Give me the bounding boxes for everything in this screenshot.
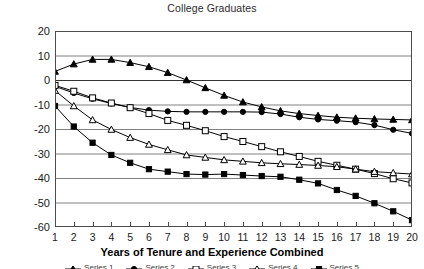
y-tick-label-7: -50	[20, 197, 50, 209]
legend-label-1: Series 1	[84, 263, 113, 269]
data-point-filled-square	[128, 160, 133, 165]
legend-label-2: Series 2	[145, 263, 174, 269]
x-tick-label-19: 20	[406, 231, 418, 243]
data-point-open-square	[221, 134, 227, 140]
legend-swatch-filled-triangle-icon	[65, 265, 81, 269]
y-axis-ticklabels: 20100-10-20-30-40-50-60	[16, 31, 50, 227]
data-point-open-square	[259, 144, 265, 150]
plot-area	[55, 31, 412, 227]
data-point-filled-square	[165, 169, 170, 174]
legend-swatch-open-square-icon	[188, 265, 204, 269]
legend-label-3: Series 3	[207, 263, 236, 269]
chart-figure: College Graduates 20100-10-20-30-40-50-6…	[0, 0, 424, 269]
data-point-filled-circle	[222, 109, 227, 114]
y-tick-label-8: -60	[20, 221, 50, 233]
y-tick-label-4: -20	[20, 123, 50, 135]
data-point-filled-square	[222, 171, 227, 176]
legend-entry-2: Series 2	[126, 263, 174, 269]
data-point-open-square	[146, 111, 152, 117]
x-tick-label-15: 16	[331, 231, 343, 243]
legend-label-4: Series 4	[268, 263, 297, 269]
y-tick-label-6: -40	[20, 172, 50, 184]
legend-entry-5: Series 5	[311, 263, 359, 269]
x-tick-label-17: 18	[369, 231, 381, 243]
data-point-open-triangle	[254, 266, 261, 269]
data-point-open-square	[127, 105, 133, 111]
data-point-open-triangle	[127, 134, 134, 140]
data-point-filled-square	[391, 209, 396, 214]
data-point-filled-triangle	[239, 99, 246, 105]
page-title: College Graduates	[0, 2, 424, 14]
legend-swatch-open-triangle-icon	[249, 265, 265, 269]
x-tick-label-5: 6	[146, 231, 152, 243]
data-point-filled-triangle	[183, 77, 190, 83]
data-point-open-square	[193, 266, 199, 269]
data-point-filled-circle	[184, 109, 189, 114]
x-tick-label-14: 15	[312, 231, 324, 243]
x-tick-label-3: 4	[108, 231, 114, 243]
data-point-filled-square	[259, 173, 264, 178]
x-tick-label-16: 17	[350, 231, 362, 243]
data-point-filled-circle	[391, 127, 396, 132]
data-point-open-square	[71, 88, 77, 94]
x-axis-ticklabels: 1234567891011121314151617181920	[55, 231, 412, 245]
x-tick-label-12: 13	[275, 231, 287, 243]
y-tick-label-3: -10	[20, 99, 50, 111]
legend-entry-4: Series 4	[249, 263, 297, 269]
x-axis-title: Years of Tenure and Experience Combined	[0, 246, 424, 258]
data-point-filled-square	[334, 187, 339, 192]
data-point-filled-triangle	[70, 266, 77, 269]
data-point-filled-square	[278, 174, 283, 179]
data-point-filled-circle	[334, 118, 339, 123]
data-point-open-triangle	[89, 117, 96, 123]
data-point-filled-square	[372, 201, 377, 206]
data-point-filled-circle	[165, 109, 170, 114]
data-point-open-square	[240, 138, 246, 144]
legend-entries: Series 1Series 2Series 3Series 4Series 5	[0, 263, 424, 269]
data-point-filled-circle	[240, 109, 245, 114]
data-point-filled-circle	[315, 117, 320, 122]
data-point-open-square	[202, 128, 208, 134]
data-point-filled-square	[71, 124, 76, 129]
data-point-open-square	[296, 153, 302, 159]
data-point-filled-triangle	[202, 84, 209, 90]
data-point-open-square	[390, 176, 396, 182]
x-tick-label-10: 11	[237, 231, 248, 243]
data-point-filled-square	[353, 193, 358, 198]
data-point-filled-triangle	[221, 92, 228, 98]
x-tick-label-0: 1	[52, 231, 58, 243]
x-tick-label-6: 7	[165, 231, 171, 243]
data-point-filled-circle	[297, 115, 302, 120]
legend-label-5: Series 5	[330, 263, 359, 269]
series-layer	[55, 56, 412, 223]
data-point-filled-square	[203, 172, 208, 177]
plot-svg	[55, 31, 412, 227]
legend-swatch-filled-circle-icon	[126, 265, 142, 269]
x-tick-label-11: 12	[256, 231, 268, 243]
y-tick-label-1: 10	[20, 50, 50, 62]
gridlines	[55, 56, 412, 203]
series-line-2	[55, 86, 412, 133]
x-tick-label-2: 3	[90, 231, 96, 243]
x-tick-label-1: 2	[71, 231, 77, 243]
data-point-filled-square	[184, 171, 189, 176]
data-point-open-triangle	[146, 141, 153, 147]
data-point-filled-square	[109, 152, 114, 157]
data-point-filled-square	[297, 177, 302, 182]
x-tick-label-13: 14	[293, 231, 305, 243]
data-point-filled-circle	[278, 111, 283, 116]
y-tick-label-0: 20	[20, 25, 50, 37]
data-point-open-square	[108, 100, 114, 106]
x-tick-label-18: 19	[387, 231, 399, 243]
legend-entry-1: Series 1	[65, 263, 113, 269]
series-line-1	[55, 59, 412, 120]
data-point-open-square	[165, 117, 171, 123]
series-1	[55, 56, 412, 123]
legend-swatch-filled-square-icon	[311, 265, 327, 269]
data-point-filled-square	[240, 172, 245, 177]
legend-entry-3: Series 3	[188, 263, 236, 269]
data-point-open-square	[184, 122, 190, 128]
data-point-filled-square	[146, 167, 151, 172]
x-tick-label-8: 9	[202, 231, 208, 243]
data-point-filled-square	[315, 181, 320, 186]
